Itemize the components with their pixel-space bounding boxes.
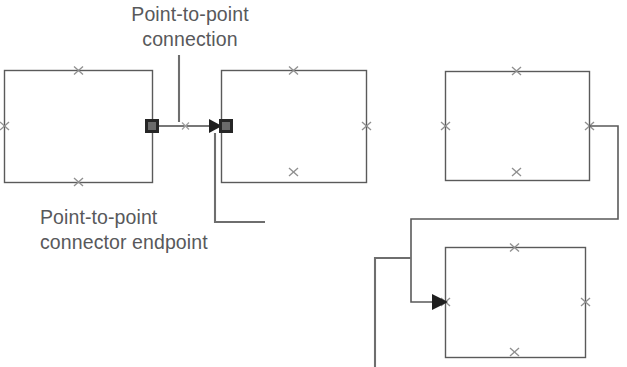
annotation-point-to-point-connection: Point-to-point connection bbox=[110, 2, 270, 52]
rectangle-outline[interactable] bbox=[446, 248, 586, 358]
diagram-graphics bbox=[0, 0, 627, 367]
dynamic-connector-path[interactable] bbox=[411, 126, 618, 302]
connection-point-cross[interactable] bbox=[512, 168, 521, 176]
connector-start-endpoint-inner bbox=[148, 122, 156, 130]
shape-rectangle-bottom-right[interactable] bbox=[446, 248, 586, 358]
diagram-canvas: Point-to-point connection Point-to-point… bbox=[0, 0, 627, 367]
rectangle-outline[interactable] bbox=[5, 71, 153, 183]
annotation-line-1: Point-to-point bbox=[40, 205, 320, 230]
connector-end-endpoint-inner bbox=[222, 122, 230, 130]
connection-point-cross[interactable] bbox=[510, 348, 519, 356]
annotation-line-2: connection bbox=[110, 27, 270, 52]
annotation-line-2: connector endpoint bbox=[40, 230, 320, 255]
connection-point-cross[interactable] bbox=[289, 168, 298, 176]
rectangle-outline[interactable] bbox=[446, 72, 590, 181]
shape-rectangle-top-right[interactable] bbox=[446, 72, 590, 181]
rectangle-outline[interactable] bbox=[222, 71, 367, 183]
dynamic-connector[interactable] bbox=[411, 126, 618, 310]
annotation-point-to-point-connector-endpoint: Point-to-point connector endpoint bbox=[40, 205, 320, 255]
shape-rectangle-top-left[interactable] bbox=[5, 71, 153, 183]
point-to-point-connector[interactable] bbox=[145, 119, 233, 133]
leader-line-offscreen-bottom bbox=[375, 258, 411, 367]
shape-rectangle-top-middle[interactable] bbox=[222, 71, 367, 183]
annotation-line-1: Point-to-point bbox=[110, 2, 270, 27]
